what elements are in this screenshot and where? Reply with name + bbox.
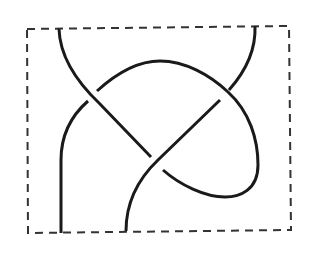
strand-top-right-upper	[229, 26, 255, 90]
strand-top-left	[59, 29, 151, 157]
strand-arch-loop	[97, 61, 258, 197]
strand-bottom-left	[61, 101, 88, 233]
strand-top-right-lower	[126, 100, 220, 231]
tangle-diagram: Knot tangle diagram inside a dashed rect…	[0, 0, 311, 256]
tangle-svg	[0, 0, 311, 256]
